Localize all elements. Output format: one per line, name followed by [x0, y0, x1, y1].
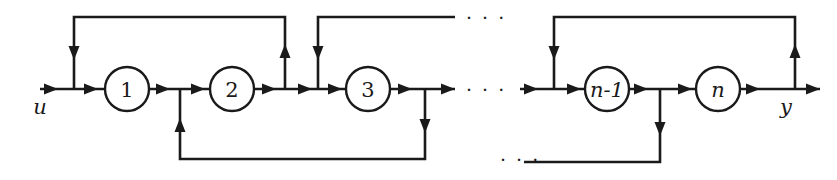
- arrowhead-node2-out: [262, 84, 276, 95]
- arrowhead-into-node-n: [678, 84, 692, 95]
- node-2[interactable]: 2: [210, 67, 254, 111]
- input-label-u: u: [33, 95, 47, 119]
- arrowhead-into-node2: [191, 84, 205, 95]
- wire-loop-top-1: [74, 17, 285, 89]
- output-label-y: y: [779, 95, 793, 119]
- node-n-label: n: [711, 78, 725, 102]
- arrowhead-to-ellipsis: [441, 84, 455, 95]
- arrowhead-loop-top-3-down: [549, 46, 560, 60]
- arrowhead-into-node3: [328, 84, 342, 95]
- node-3[interactable]: 3: [346, 67, 390, 111]
- feedback-loop-top-1: [69, 17, 291, 89]
- arrowhead-node3-out: [398, 84, 412, 95]
- arrowhead-loop-bottom-1-down: [420, 119, 431, 133]
- arrowhead-loop-top-1-down: [69, 46, 80, 60]
- arrowhead-loop-bottom-2-down: [655, 122, 666, 136]
- node-n-minus-1-label: n-1: [590, 78, 624, 102]
- arrowhead-pre-node3-a: [298, 84, 312, 95]
- feedback-loop-top-3: [549, 17, 801, 89]
- arrowhead-loop-bottom-1-up: [175, 118, 186, 132]
- arrowhead-after-ellipsis: [524, 84, 538, 95]
- ellipsis-bottom-right: · · ·: [500, 148, 540, 170]
- arrowhead-node1-out: [156, 84, 170, 95]
- arrowhead-node-n-out: [746, 84, 760, 95]
- node-1-label: 1: [120, 78, 133, 102]
- arrowhead-loop-top-1-up: [280, 44, 291, 58]
- arrowhead-into-node1: [84, 84, 98, 95]
- arrowhead-loop-top-3-up: [790, 44, 801, 58]
- node-3-label: 3: [361, 78, 374, 102]
- node-2-label: 2: [225, 78, 238, 102]
- diagram-canvas: 1 2 3 n-1 n u y · · · · · · · · ·: [0, 0, 837, 180]
- arrowhead-into-node-n-1: [567, 84, 581, 95]
- block-diagram-figure: 1 2 3 n-1 n u y · · · · · · · · ·: [0, 0, 837, 180]
- node-1[interactable]: 1: [105, 67, 149, 111]
- arrowhead-node-n-1-out: [634, 84, 648, 95]
- ellipsis-main-line: · · ·: [466, 78, 506, 100]
- node-n[interactable]: n: [696, 67, 740, 111]
- node-n-minus-1[interactable]: n-1: [585, 67, 629, 111]
- arrowhead-loop-top-2-down: [313, 46, 324, 60]
- arrowhead-output: [806, 84, 820, 95]
- arrowhead-input: [44, 84, 58, 95]
- ellipsis-top: · · ·: [466, 6, 506, 28]
